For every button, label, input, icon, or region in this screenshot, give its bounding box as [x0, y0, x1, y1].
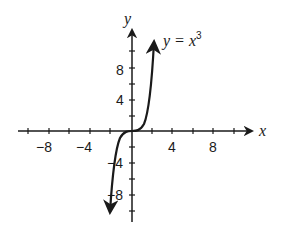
function-label: y = x3 — [161, 30, 202, 50]
x-tick-label-4: 4 — [168, 139, 176, 155]
cubic-function-graph: −8 −4 4 8 8 4 −4 −8 x y y = x3 — [0, 0, 286, 234]
y-tick-label-8: 8 — [116, 62, 124, 78]
y-tick-label-neg8: −8 — [107, 187, 123, 203]
y-tick-label-4: 4 — [116, 92, 124, 108]
x-tick-label-neg4: −4 — [76, 139, 92, 155]
x-tick-label-neg8: −8 — [36, 139, 52, 155]
x-tick-label-8: 8 — [209, 139, 217, 155]
y-axis-label: y — [122, 10, 132, 28]
x-axis-label: x — [258, 122, 266, 139]
